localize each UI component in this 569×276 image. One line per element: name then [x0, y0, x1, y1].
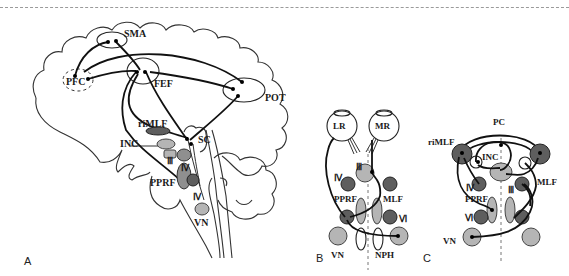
- pfc-node-2: [86, 77, 90, 81]
- label-iv: Ⅳ: [334, 173, 343, 183]
- label-vn: VN: [331, 250, 344, 260]
- rimlf-node-right: [538, 151, 542, 155]
- label-mlf: MLF: [383, 194, 403, 204]
- label-iv-upper: Ⅳ: [181, 163, 190, 173]
- inc-nucleus: [157, 139, 175, 149]
- label-rimlf: riMLF: [138, 118, 167, 129]
- panel-c-label: C: [423, 252, 431, 264]
- fef-node: [135, 70, 139, 74]
- label-vi: Ⅵ: [464, 213, 473, 223]
- sma-node: [106, 40, 110, 44]
- label-sc: SC: [198, 134, 211, 145]
- label-nph: NPH: [375, 250, 394, 260]
- iii-node: [370, 170, 374, 174]
- vn-nucleus: [195, 203, 209, 215]
- vn-node: [470, 235, 474, 239]
- cerebellum-fold: [236, 200, 252, 205]
- vi-left: [474, 210, 488, 224]
- sc-node-2: [189, 142, 193, 146]
- fef-node-2: [143, 70, 147, 74]
- label-iii: Ⅲ: [508, 185, 514, 195]
- inc-node-left: [476, 160, 480, 164]
- pot-node: [240, 80, 244, 84]
- oculomotor-pathways-figure: SMA PFC FEF POT riMLF INC SC Ⅲ Ⅳ PPRF Ⅳ …: [0, 0, 569, 276]
- panel-b-label: B: [316, 252, 323, 264]
- pot-area: [223, 78, 265, 102]
- label-fef: FEF: [154, 78, 173, 89]
- label-mlf: MLF: [537, 177, 557, 187]
- label-pprf: PPRF: [465, 194, 488, 204]
- label-mr: MR: [375, 121, 390, 131]
- label-inc: INC: [120, 138, 138, 149]
- rimlf-node-left: [460, 151, 464, 155]
- label-iv-lower: Ⅳ: [193, 192, 202, 202]
- brainstem-dorsal: [206, 130, 224, 258]
- pot-node-3: [236, 94, 240, 98]
- pprf-right: [505, 197, 515, 223]
- vn-nucleus-left: [329, 227, 347, 245]
- pprf-node: [490, 208, 494, 212]
- cerebellum-outline: [214, 153, 276, 219]
- iv-nucleus-right: [383, 177, 397, 191]
- left-eye-muscles: [348, 138, 360, 154]
- label-iii: Ⅲ: [167, 156, 173, 166]
- nph-right: [373, 228, 383, 250]
- sma-area: [97, 32, 127, 48]
- panel-a: SMA PFC FEF POT riMLF INC SC Ⅲ Ⅳ PPRF Ⅳ …: [24, 22, 288, 267]
- label-vi: Ⅵ: [398, 214, 407, 224]
- pathway-pfc-sma: [75, 42, 108, 76]
- panel-b: LR MR Ⅲ Ⅳ PPRF MLF Ⅵ VN NPH B: [316, 110, 408, 270]
- vi-nucleus-right: [383, 210, 397, 224]
- fourth-ventricle: [209, 178, 220, 258]
- label-iii: Ⅲ: [356, 162, 362, 172]
- panel-c: PC riMLF INC Ⅳ PPRF Ⅲ MLF Ⅵ VN C: [423, 117, 557, 264]
- label-pot: POT: [265, 92, 286, 103]
- label-pprf: PPRF: [334, 194, 357, 204]
- label-iv: Ⅳ: [466, 183, 475, 193]
- sma-node-2: [114, 39, 118, 43]
- label-vn: VN: [194, 217, 209, 228]
- label-rimlf: riMLF: [428, 137, 455, 147]
- vn-node: [396, 234, 400, 238]
- label-pprf: PPRF: [150, 177, 176, 188]
- label-inc: INC: [482, 152, 499, 162]
- iv-nucleus-left: [341, 177, 355, 191]
- sc-node: [185, 137, 189, 141]
- pc-node: [499, 143, 503, 147]
- pot-node-2: [231, 87, 235, 91]
- panel-a-label: A: [24, 255, 32, 267]
- label-sma: SMA: [124, 28, 147, 39]
- label-lr: LR: [333, 121, 346, 131]
- label-pc: PC: [493, 117, 505, 127]
- label-pfc: PFC: [66, 76, 85, 87]
- iii-complex: [490, 163, 512, 181]
- iv-nucleus-upper: [177, 149, 191, 161]
- vi-nucleus: [187, 174, 199, 186]
- posterior-commissure-inner: [464, 142, 534, 154]
- label-vn: VN: [443, 236, 456, 246]
- vn-right: [522, 228, 540, 246]
